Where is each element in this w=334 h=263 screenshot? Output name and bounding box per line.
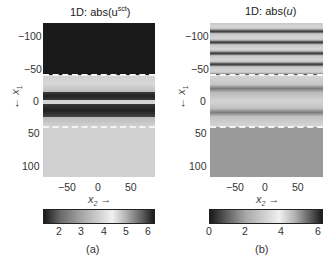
heatmap-a — [43, 23, 155, 177]
xtick-a-2: 50 — [125, 181, 137, 193]
caption-b: (b) — [255, 243, 268, 255]
heatmap-b — [210, 23, 323, 177]
band-b-bottom — [210, 127, 323, 177]
band-light-1 — [43, 75, 155, 92]
panel-a-title: 1D: abs(usct) — [70, 5, 130, 18]
xlabel-b: x2 → — [256, 193, 279, 207]
colorbar-b — [209, 209, 323, 224]
ylabel-b: ← x1 — [175, 83, 189, 111]
cbar-b-tick-1: 2 — [242, 225, 248, 237]
title-b-main: 1D: abs( — [245, 5, 287, 17]
ylabel-b-sub: 1 — [182, 85, 189, 89]
ytick-a-3: 50 — [28, 127, 40, 139]
xlabel-a: x2 → — [88, 193, 111, 207]
cbar-b-tick-3: 6 — [315, 225, 321, 237]
xlabel-a-arrow: → — [100, 193, 111, 205]
ytick-b-3: 50 — [195, 127, 207, 139]
title-a-end: ) — [127, 6, 131, 18]
xlabel-b-sub: 2 — [262, 200, 266, 207]
panel-b-title: 1D: abs(u) — [245, 5, 296, 17]
dashed-line-upper — [43, 74, 155, 76]
dashed-line-b-lower — [210, 126, 323, 128]
ytick-b-2: 0 — [200, 95, 206, 107]
colorbar-a — [43, 209, 155, 224]
ytick-a-4: 100 — [22, 160, 40, 172]
cbar-a-tick-4: 6 — [145, 225, 151, 237]
cbar-a-tick-0: 2 — [56, 225, 62, 237]
xlabel-a-sub: 2 — [94, 200, 98, 207]
band-b-middle — [210, 75, 323, 127]
cbar-a-tick-3: 5 — [123, 225, 129, 237]
band-dark-top — [43, 23, 155, 75]
dashed-line-b-upper — [210, 74, 323, 76]
band-dark-1 — [43, 92, 155, 100]
ylabel-b-var: x — [175, 89, 187, 95]
title-b-end: ) — [293, 5, 297, 17]
title-a-sup: sct — [118, 5, 127, 12]
ytick-a-0: −100 — [18, 30, 42, 42]
ytick-b-0: −100 — [185, 30, 209, 42]
ytick-b-1: −50 — [191, 63, 209, 75]
band-b-top — [210, 23, 323, 75]
ytick-b-4: 100 — [189, 160, 207, 172]
caption-a: (a) — [86, 243, 99, 255]
band-light-bottom — [43, 127, 155, 177]
ylabel-a-sub: 1 — [16, 85, 23, 89]
ylabel-a: ← x1 — [9, 83, 23, 111]
xtick-b-0: −50 — [226, 181, 244, 193]
xtick-a-1: 0 — [95, 181, 101, 193]
ylabel-b-arrow: ← — [175, 98, 187, 109]
xlabel-b-arrow: → — [268, 193, 279, 205]
xtick-a-0: −50 — [58, 181, 76, 193]
cbar-b-tick-2: 4 — [278, 225, 284, 237]
dashed-line-lower — [43, 126, 155, 128]
title-a-main: 1D: abs(u — [70, 6, 118, 18]
ylabel-a-arrow: ← — [9, 98, 21, 109]
cbar-a-tick-1: 3 — [78, 225, 84, 237]
ylabel-a-var: x — [9, 89, 21, 95]
xtick-b-2: 50 — [292, 181, 304, 193]
cbar-b-tick-0: 0 — [206, 225, 212, 237]
ytick-a-1: −50 — [24, 63, 42, 75]
band-dark-2 — [43, 104, 155, 117]
xtick-b-1: 0 — [262, 181, 268, 193]
cbar-a-tick-2: 4 — [101, 225, 107, 237]
ytick-a-2: 0 — [33, 95, 39, 107]
